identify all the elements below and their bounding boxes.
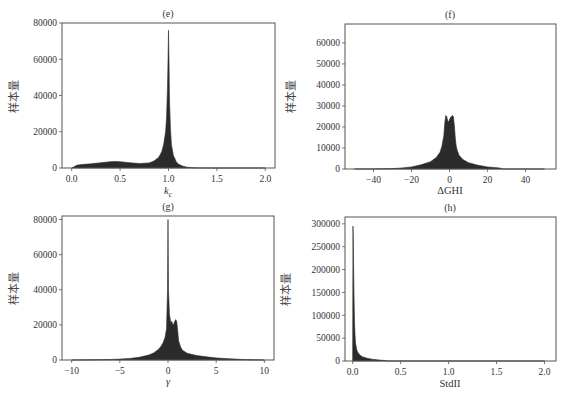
x-tick-label: 5	[214, 366, 219, 376]
y-tick-label: 80000	[33, 18, 57, 28]
panel-title: (e)	[162, 8, 173, 20]
panel-e: (e) 020000400006000080000 0.00.51.01.52.…	[7, 8, 275, 199]
x-axis-ticks: −40−2002040	[366, 169, 531, 185]
x-axis-ticks: 0.00.51.01.52.0	[347, 361, 551, 377]
y-tick-label: 200000	[312, 265, 341, 275]
x-tick-label: 20	[483, 175, 493, 185]
y-tick-label: 0	[52, 355, 57, 365]
y-tick-label: 20000	[316, 122, 340, 132]
y-tick-label: 100000	[312, 311, 341, 321]
y-tick-label: 20000	[33, 320, 57, 330]
x-tick-label: 1.0	[163, 174, 175, 184]
x-axis-ticks: 0.00.51.01.52.0	[66, 168, 272, 184]
y-tick-label: 0	[335, 164, 340, 174]
y-tick-label: 40000	[316, 80, 340, 90]
x-tick-label: 1.5	[211, 174, 223, 184]
y-tick-label: 150000	[312, 288, 341, 298]
y-tick-label: 300000	[312, 219, 341, 229]
x-tick-label: 0.0	[347, 367, 359, 377]
y-tick-label: 60000	[316, 38, 340, 48]
histogram-area	[72, 30, 266, 168]
y-axis-label: 样本量	[7, 80, 20, 113]
x-axis-label: ΔGHI	[437, 185, 463, 196]
axes-frame	[345, 217, 556, 361]
y-tick-label: 250000	[312, 242, 341, 252]
x-axis-label: γ	[166, 376, 171, 387]
y-tick-label: 60000	[33, 250, 57, 260]
x-axis-ticks: −10−50510	[64, 360, 269, 376]
y-tick-label: 80000	[33, 215, 57, 225]
x-axis-label: kc	[164, 185, 173, 199]
y-axis-label: 样本量	[284, 80, 297, 113]
figure-canvas: (e) 020000400006000080000 0.00.51.01.52.…	[0, 0, 565, 402]
panel-title: (f)	[445, 9, 455, 21]
y-tick-label: 0	[335, 356, 340, 366]
x-tick-label: 0.5	[395, 367, 407, 377]
x-tick-label: 0.5	[114, 174, 126, 184]
x-tick-label: 0.0	[66, 174, 78, 184]
y-tick-label: 50000	[316, 333, 340, 343]
x-tick-label: 0	[447, 175, 452, 185]
panel-h: (h) 050000100000150000200000250000300000…	[279, 202, 556, 389]
x-tick-label: −5	[115, 366, 125, 376]
panel-title: (g)	[162, 201, 174, 213]
histogram-area	[353, 226, 545, 361]
x-tick-label: −10	[64, 366, 79, 376]
x-tick-label: 40	[521, 175, 531, 185]
y-axis-ticks: 0100002000030000400005000060000	[316, 38, 345, 174]
y-tick-label: 40000	[33, 285, 57, 295]
y-tick-label: 30000	[316, 101, 340, 111]
y-axis-label: 样本量	[7, 272, 20, 305]
x-tick-label: 0	[166, 366, 171, 376]
y-tick-label: 40000	[33, 91, 57, 101]
y-tick-label: 20000	[33, 127, 57, 137]
x-tick-label: 1.5	[491, 367, 503, 377]
y-tick-label: 60000	[33, 55, 57, 65]
y-tick-label: 0	[52, 163, 57, 173]
panel-g: (g) 020000400006000080000 −10−50510 样本量 …	[7, 201, 274, 387]
panel-f: (f) 0100002000030000400005000060000 −40−…	[284, 9, 556, 196]
histogram-area	[355, 115, 545, 169]
x-tick-label: 1.0	[443, 367, 455, 377]
x-axis-label: StdII	[440, 378, 462, 389]
x-tick-label: 10	[260, 366, 270, 376]
y-tick-label: 10000	[316, 143, 340, 153]
y-axis-ticks: 020000400006000080000	[33, 215, 62, 365]
histogram-area	[72, 220, 265, 360]
y-axis-ticks: 020000400006000080000	[33, 18, 62, 173]
y-axis-label: 样本量	[279, 273, 292, 306]
panel-title: (h)	[444, 202, 456, 214]
x-tick-label: −40	[366, 175, 381, 185]
x-tick-label: 2.0	[539, 367, 551, 377]
y-axis-ticks: 050000100000150000200000250000300000	[312, 219, 346, 366]
x-tick-label: 2.0	[259, 174, 271, 184]
x-tick-label: −20	[404, 175, 419, 185]
y-tick-label: 50000	[316, 59, 340, 69]
